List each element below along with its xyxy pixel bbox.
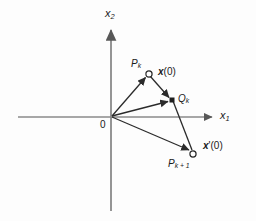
point-markers-group <box>146 71 196 157</box>
vector-origin-to-qk <box>112 102 168 117</box>
vectors-group <box>112 76 192 150</box>
marker-pk1-open-circle <box>190 151 196 157</box>
point-label-pk: Pk <box>131 59 141 70</box>
marker-qk-filled-square <box>170 98 175 103</box>
x2-axis-label: x2 <box>105 8 115 20</box>
segment-qk-to-pk1 <box>173 101 192 150</box>
annotation-x0: x(0) <box>158 67 176 77</box>
vector-diagram-figure: x2 x1 0 Pk Qk Pk + 1 x(0) x'(0) <box>0 0 256 221</box>
point-label-pk1: Pk + 1 <box>168 159 190 170</box>
x1-axis-label: x1 <box>220 110 230 122</box>
vector-origin-to-pk1 <box>112 117 189 150</box>
annotation-x-prime-0: x'(0) <box>203 141 223 151</box>
marker-pk-open-circle <box>146 71 152 77</box>
point-label-qk: Qk <box>178 94 189 105</box>
vector-pk-to-qk <box>150 76 169 98</box>
origin-label: 0 <box>100 120 106 130</box>
diagram-canvas <box>0 0 256 221</box>
vector-origin-to-pk <box>112 78 146 117</box>
axes-group <box>18 30 212 211</box>
